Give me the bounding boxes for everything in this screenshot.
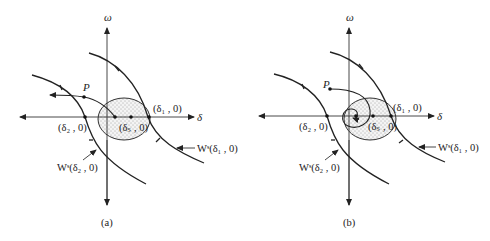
manifold-d2-label: Wˢ(δ₂ , 0) [299, 162, 340, 174]
equilibrium-d1 [389, 114, 393, 118]
eq-d1-label: (δ₁ , 0) [393, 102, 422, 114]
stability-region-ellipse [98, 98, 150, 140]
eq-ds-label: (δₛ , 0) [119, 122, 149, 134]
panel-b: ω δ P (δ₁ , 0) (δ₂ , 0) (δₛ , 0) Wˢ(δ₁ ,… [259, 11, 479, 229]
point-p-label: P [82, 81, 90, 93]
eq-d2-label: (δ₂ , 0) [299, 121, 328, 133]
phase-portrait-figure: ω δ P (δ₁ , 0) (δ₂ , 0) (δₛ , 0) Wˢ(δ₁ ,… [0, 0, 490, 241]
stability-region-ellipse [344, 98, 396, 140]
equilibrium-ds [371, 114, 375, 118]
eq-ds-label: (δₛ , 0) [368, 121, 398, 133]
caption-b: (b) [343, 217, 356, 229]
arrow-tick-icon [302, 84, 304, 89]
omega-axis-label: ω [104, 11, 112, 23]
manifold-d2-label: Wˢ(δ₂ , 0) [57, 162, 98, 174]
eq-d2-label: (δ₂ , 0) [58, 122, 87, 134]
equilibrium-ds-left [113, 115, 117, 119]
panel-a: ω δ P (δ₁ , 0) (δ₂ , 0) (δₛ , 0) Wˢ(δ₁ ,… [20, 11, 238, 229]
manifold-d1-label: Wˢ(δ₁ , 0) [197, 143, 238, 155]
point-p [82, 95, 86, 99]
eq-d1-label: (δ₁ , 0) [153, 103, 182, 115]
manifold-d1-label: Wˢ(δ₁ , 0) [438, 142, 479, 154]
delta-axis-label: δ [197, 111, 203, 123]
equilibrium-d2 [83, 115, 87, 119]
caption-a: (a) [101, 217, 113, 229]
arrow-tick-icon [60, 85, 62, 90]
arrow-tick-icon [156, 138, 160, 142]
pointer-arrow-d2 [325, 150, 338, 160]
equilibrium-d2 [325, 114, 329, 118]
arrow-tick-icon [399, 140, 403, 143]
point-p-label: P [322, 78, 330, 90]
omega-axis-label: ω [346, 11, 354, 23]
delta-axis-label: δ [437, 110, 443, 122]
equilibrium-d1 [147, 115, 151, 119]
manifold-curve-d1 [330, 52, 445, 162]
pointer-arrow-d2 [83, 150, 96, 160]
equilibrium-ds-left [354, 114, 358, 118]
equilibrium-ds [129, 115, 133, 119]
